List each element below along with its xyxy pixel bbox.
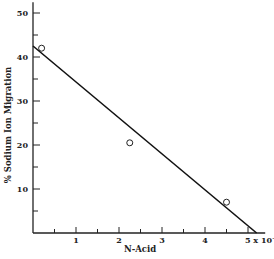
y-tick-label: 40 xyxy=(17,52,29,62)
data-point-marker xyxy=(127,140,133,146)
data-point-marker xyxy=(39,45,45,51)
data-series xyxy=(33,45,257,233)
x-tick-label: 1 xyxy=(73,235,79,245)
x-tick-label: 5 x 10⁻⁴ xyxy=(245,235,274,245)
y-tick-label: 30 xyxy=(17,96,29,106)
ticks: 12345 x 10⁻⁴1020304050 xyxy=(17,8,274,245)
x-axis-label: N-Acid xyxy=(124,244,156,254)
y-axis-label: % Sodium Ion Migration xyxy=(3,67,13,184)
y-tick-label: 50 xyxy=(17,8,29,18)
data-point-marker xyxy=(224,199,230,205)
axes xyxy=(33,2,265,233)
chart: 12345 x 10⁻⁴1020304050 N-Acid % Sodium I… xyxy=(0,0,274,259)
y-tick-label: 20 xyxy=(17,140,29,150)
x-tick-label: 4 xyxy=(202,235,208,245)
fit-line xyxy=(33,46,257,233)
y-tick-label: 10 xyxy=(17,184,29,194)
x-tick-label: 2 xyxy=(116,235,122,245)
x-tick-label: 3 xyxy=(159,235,165,245)
